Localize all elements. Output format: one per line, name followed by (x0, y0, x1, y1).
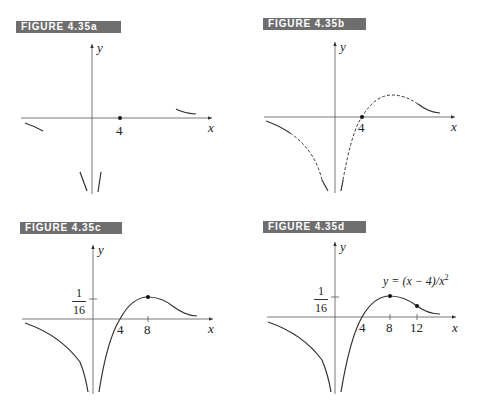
x-axis-label-c: x (208, 322, 214, 335)
y-tick-fraction-c: 1 16 (72, 287, 86, 316)
y-tick-fraction-d: 1 16 (314, 285, 328, 314)
x-tick-4-d: 4 (359, 321, 366, 334)
x-axis-label-b: x (451, 120, 457, 133)
x-tick-8-c: 8 (144, 323, 151, 336)
figure-c-plot (22, 245, 213, 394)
x-axis-label-a: x (208, 121, 214, 134)
figure-b-plot (264, 42, 455, 193)
y-axis-label-a: y (97, 41, 103, 54)
left-tail-curve (25, 123, 43, 131)
y-axis-label-d: y (340, 240, 346, 253)
x-tick-4-c: 4 (117, 323, 124, 336)
zero-point (118, 116, 122, 120)
y-axis-label-b: y (340, 40, 346, 53)
x-tick-4-a: 4 (116, 124, 123, 137)
x-axis-label-d: x (452, 321, 458, 334)
x-tick-12-d: 12 (410, 321, 423, 334)
figure-d-plot (267, 242, 456, 394)
figures-canvas (0, 0, 479, 402)
right-tail-curve (176, 109, 196, 114)
figure-a-plot (21, 44, 212, 194)
x-tick-8-d: 8 (386, 321, 393, 334)
y-axis-label-c: y (98, 243, 104, 256)
x-tick-4-b: 4 (358, 121, 365, 134)
equation-label: y = (x − 4)/x2 (383, 274, 449, 287)
asymptote-left-piece (80, 172, 87, 191)
asymptote-right-piece (98, 172, 101, 192)
